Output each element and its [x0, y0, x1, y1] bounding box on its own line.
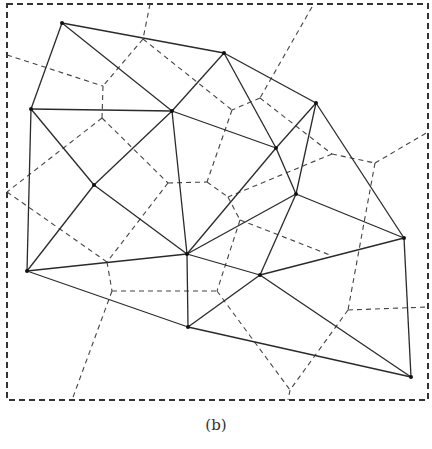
voronoi-edge [207, 182, 228, 197]
delaunay-edge [94, 111, 172, 185]
voronoi-edge [207, 110, 232, 182]
voronoi-edge [348, 163, 375, 310]
delaunay-edge [276, 148, 296, 194]
delaunay-edge [94, 185, 187, 254]
delaunay-edge [260, 238, 404, 275]
voronoi-edge [228, 154, 332, 197]
site-point [29, 107, 33, 111]
figure-caption: (b) [0, 416, 432, 434]
delaunay-edge [62, 23, 224, 53]
delaunay-edge [27, 185, 94, 271]
delaunay-edge [276, 103, 316, 148]
site-point [185, 252, 189, 256]
delaunay-edge [260, 194, 296, 275]
delaunay-edge [172, 111, 276, 148]
bounding-box [7, 4, 428, 400]
voronoi-edge [7, 118, 102, 192]
site-point [402, 236, 406, 240]
voronoi-edge [288, 390, 290, 400]
delaunay-edge [296, 103, 316, 194]
delaunay-edge [187, 194, 296, 254]
site-point [294, 192, 298, 196]
voronoi-edge [228, 197, 240, 220]
voronoi-edge [103, 39, 143, 86]
delaunay-edge [316, 103, 404, 238]
delaunay-edge [296, 194, 404, 238]
voronoi-edge [107, 262, 112, 291]
delaunay-edge [172, 111, 187, 254]
delaunay-edge [260, 275, 411, 377]
site-point [314, 101, 318, 105]
site-point [60, 21, 64, 25]
voronoi-edge [7, 192, 107, 262]
delaunay-edge [27, 254, 187, 271]
voronoi-edge [102, 118, 168, 183]
voronoi-edge [168, 182, 207, 183]
delaunay-edge [31, 23, 62, 109]
site-point [409, 375, 413, 379]
delaunay-edge [187, 254, 188, 327]
delaunay-edges [27, 23, 411, 377]
delaunay-edge [188, 275, 260, 327]
delaunay-edge [27, 109, 31, 271]
site-point [92, 183, 96, 187]
site-point [222, 51, 226, 55]
voronoi-edge [375, 132, 428, 163]
voronoi-edge [72, 291, 112, 400]
delaunay-edge [62, 23, 172, 111]
delaunay-edge [31, 109, 172, 111]
site-points [25, 21, 413, 379]
site-point [25, 269, 29, 273]
voronoi-edge [348, 307, 428, 310]
voronoi-edge [102, 86, 103, 118]
voronoi-edge [240, 220, 330, 255]
delaunay-edge [172, 53, 224, 111]
voronoi-edge [143, 39, 232, 110]
voronoi-edge [7, 55, 103, 86]
voronoi-edge [143, 4, 150, 39]
site-point [258, 273, 262, 277]
delaunay-edge [27, 271, 188, 327]
voronoi-edge [107, 183, 168, 262]
voronoi-edge [290, 310, 348, 390]
site-point [170, 109, 174, 113]
voronoi-edges [7, 4, 428, 400]
voronoi-delaunay-diagram [0, 0, 432, 410]
voronoi-edge [260, 7, 312, 98]
delaunay-edge [187, 148, 276, 254]
site-point [186, 325, 190, 329]
delaunay-edge [31, 109, 94, 185]
delaunay-edge [188, 327, 411, 377]
site-point [274, 146, 278, 150]
voronoi-edge [232, 98, 260, 110]
voronoi-edge [217, 291, 290, 390]
